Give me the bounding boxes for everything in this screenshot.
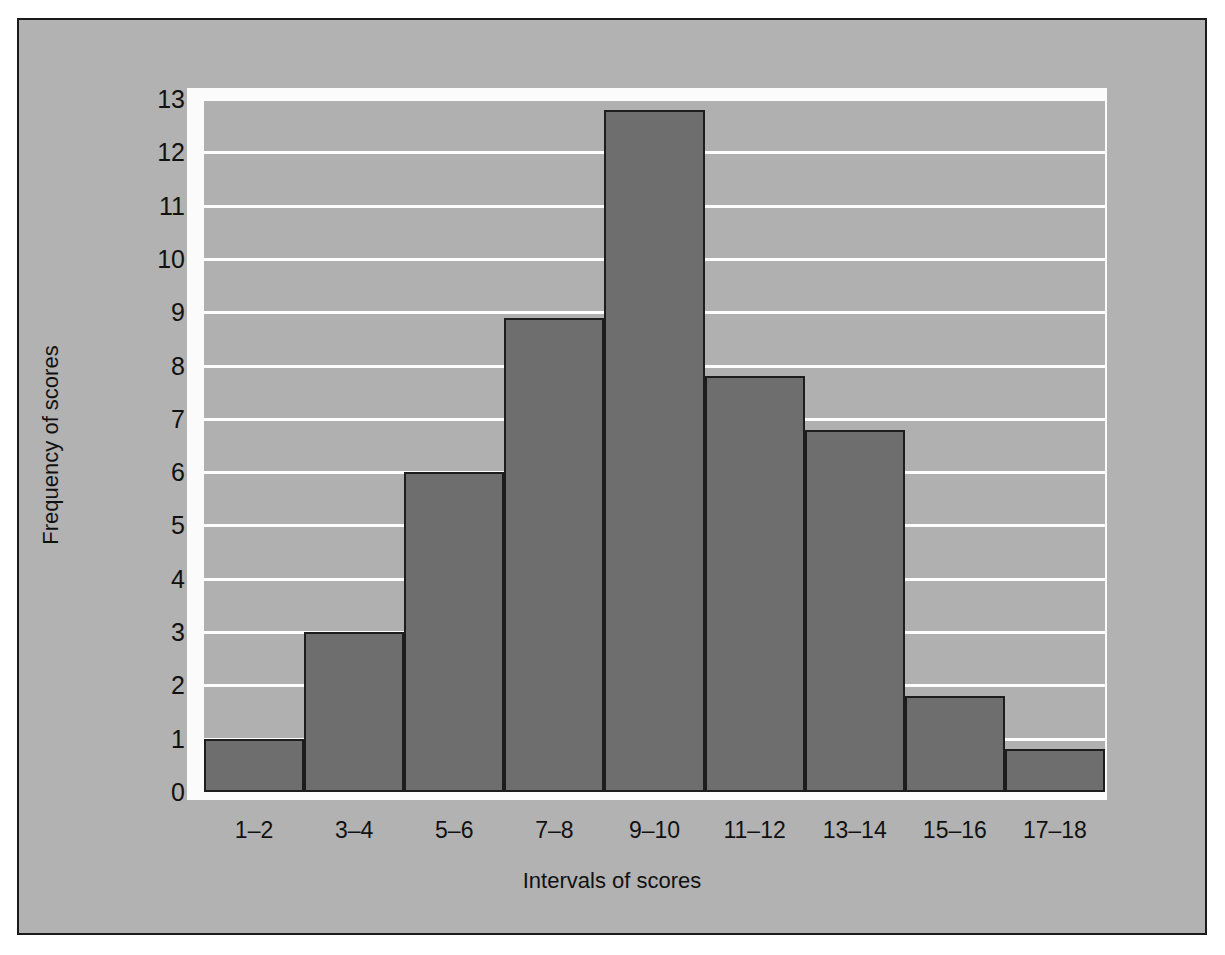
gridline — [204, 99, 1105, 101]
x-axis-tick-label: 13–14 — [823, 817, 887, 844]
x-axis-tick-labels: 1–23–45–67–89–1011–1213–1415–1617–18 — [204, 817, 1105, 857]
histogram-bar — [204, 739, 304, 792]
y-axis-tick-label: 8 — [139, 353, 185, 378]
y-axis-tick-label: 10 — [139, 246, 185, 271]
histogram-bar — [705, 376, 805, 792]
y-axis-tick-label: 9 — [139, 300, 185, 325]
histogram-bar — [504, 318, 604, 792]
histogram-bar — [304, 632, 404, 792]
x-axis-tick-label: 11–12 — [723, 817, 785, 844]
y-axis-tick-label: 13 — [139, 87, 185, 112]
histogram-bar — [905, 696, 1005, 792]
y-axis-tick-label: 5 — [139, 513, 185, 538]
y-axis-tick-label: 1 — [139, 726, 185, 751]
plot-area — [204, 99, 1105, 792]
x-axis-tick-label: 7–8 — [535, 817, 573, 844]
x-axis-tick-label: 9–10 — [629, 817, 680, 844]
x-axis-tick-label: 1–2 — [235, 817, 273, 844]
histogram-bar — [604, 110, 704, 792]
y-axis-tick-label: 12 — [139, 140, 185, 165]
x-axis-tick-label: 3–4 — [335, 817, 373, 844]
x-axis-tick-label: 5–6 — [435, 817, 473, 844]
y-axis-tick-label: 3 — [139, 620, 185, 645]
y-axis-tick-label: 6 — [139, 460, 185, 485]
y-axis-tick-label: 2 — [139, 673, 185, 698]
y-axis-tick-label: 11 — [139, 193, 185, 218]
x-axis-tick-label: 15–16 — [923, 817, 987, 844]
y-axis-title: Frequency of scores — [38, 205, 64, 685]
histogram-bar — [1005, 749, 1105, 792]
y-axis-tick-labels: 012345678910111213 — [119, 99, 185, 792]
histogram-bar — [404, 472, 504, 792]
x-axis-tick-label: 17–18 — [1023, 817, 1087, 844]
figure-panel: 012345678910111213 1–23–45–67–89–1011–12… — [17, 18, 1207, 935]
x-axis-title: Intervals of scores — [19, 868, 1205, 894]
y-axis-tick-label: 7 — [139, 406, 185, 431]
y-axis-tick-label: 0 — [139, 780, 185, 805]
histogram-bar — [805, 430, 905, 792]
y-axis-tick-label: 4 — [139, 566, 185, 591]
